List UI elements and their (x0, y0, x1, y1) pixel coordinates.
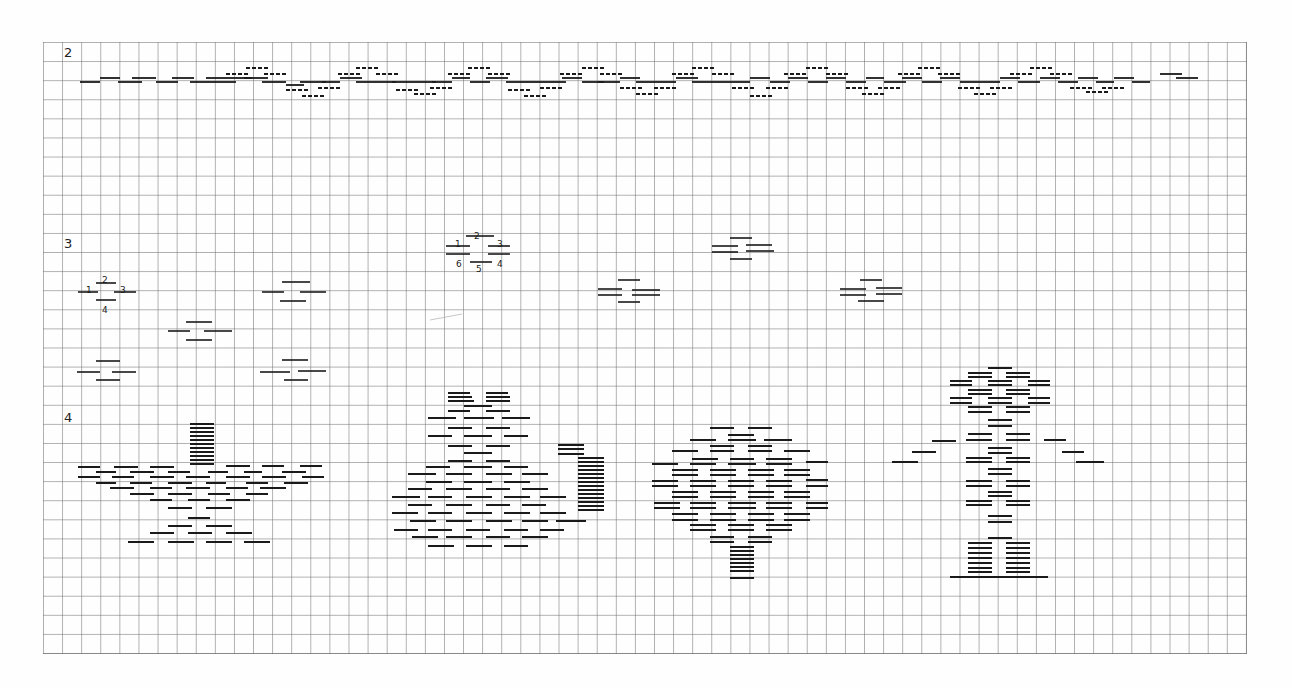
tree-drawing (652, 428, 828, 578)
pencil-mark (430, 314, 462, 320)
cat-drawing (392, 393, 604, 546)
figure-drawing (892, 368, 1104, 577)
drawing-strokes (0, 0, 1292, 688)
wave-band (80, 68, 1198, 96)
graph-paper-sheet: 2 3 4 1234123654 (0, 0, 1292, 688)
candlestick-drawing (78, 424, 324, 542)
stray-pencil-mark (430, 314, 462, 320)
cross-patterns (77, 236, 902, 380)
